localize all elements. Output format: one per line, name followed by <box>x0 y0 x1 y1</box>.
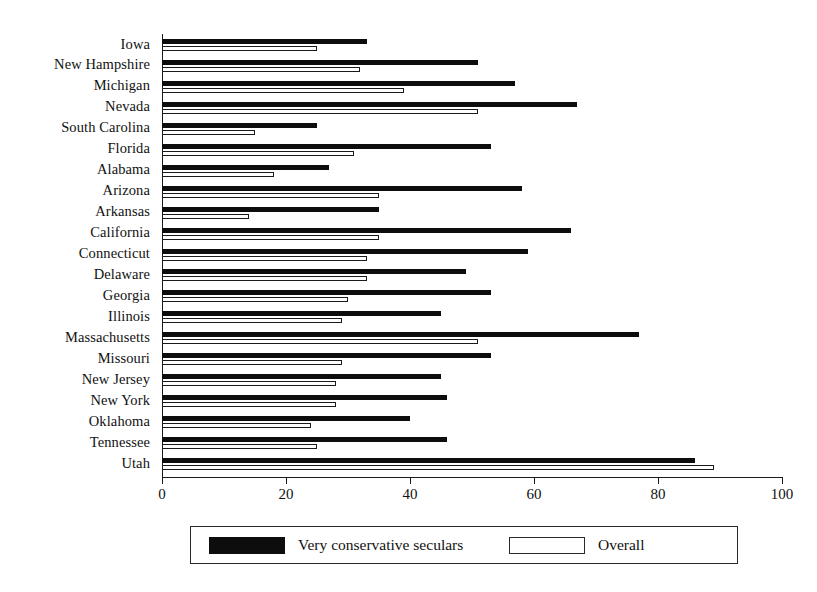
x-tick-mark <box>162 478 163 484</box>
bar-overall <box>162 130 255 135</box>
bar-chart: IowaNew HampshireMichiganNevadaSouth Car… <box>0 0 817 592</box>
x-tick-label: 0 <box>158 486 166 503</box>
category-label: Massachusetts <box>0 330 150 345</box>
bar-very-conservative-seculars <box>162 353 491 358</box>
x-tick-label: 40 <box>403 486 418 503</box>
bar-overall <box>162 465 714 470</box>
bar-overall <box>162 339 478 344</box>
bar-very-conservative-seculars <box>162 39 367 44</box>
x-tick-label: 80 <box>651 486 666 503</box>
category-label: Delaware <box>0 267 150 282</box>
category-axis-labels: IowaNew HampshireMichiganNevadaSouth Car… <box>0 36 156 476</box>
bar-very-conservative-seculars <box>162 269 466 274</box>
legend-entry-very-conservative-seculars: Very conservative seculars <box>209 527 463 563</box>
bar-very-conservative-seculars <box>162 416 410 421</box>
bar-very-conservative-seculars <box>162 186 522 191</box>
x-tick-label: 60 <box>527 486 542 503</box>
x-axis-line <box>162 477 783 478</box>
bar-overall <box>162 172 274 177</box>
bar-overall <box>162 256 367 261</box>
bar-overall <box>162 423 311 428</box>
bar-overall <box>162 193 379 198</box>
bar-overall <box>162 214 249 219</box>
bar-very-conservative-seculars <box>162 332 639 337</box>
category-label: New York <box>0 393 150 408</box>
x-tick-mark <box>658 478 659 484</box>
legend-label-very-conservative-seculars: Very conservative seculars <box>298 536 463 554</box>
dark-swatch-icon <box>209 537 285 554</box>
bar-very-conservative-seculars <box>162 165 329 170</box>
bar-overall <box>162 381 336 386</box>
bar-very-conservative-seculars <box>162 437 447 442</box>
scan-edge <box>0 0 817 2</box>
category-label: Georgia <box>0 288 150 303</box>
bar-overall <box>162 276 367 281</box>
x-tick-label: 20 <box>279 486 294 503</box>
x-tick-mark <box>782 478 783 484</box>
category-label: Oklahoma <box>0 414 150 429</box>
bar-very-conservative-seculars <box>162 249 528 254</box>
category-label: Utah <box>0 456 150 471</box>
bar-very-conservative-seculars <box>162 123 317 128</box>
category-label: Alabama <box>0 162 150 177</box>
category-label: Tennessee <box>0 435 150 450</box>
bar-very-conservative-seculars <box>162 311 441 316</box>
x-tick-mark <box>410 478 411 484</box>
category-label: Nevada <box>0 99 150 114</box>
bar-very-conservative-seculars <box>162 374 441 379</box>
category-label: Michigan <box>0 78 150 93</box>
bar-overall <box>162 360 342 365</box>
category-label: Connecticut <box>0 246 150 261</box>
bar-very-conservative-seculars <box>162 102 577 107</box>
bar-overall <box>162 297 348 302</box>
category-label: South Carolina <box>0 120 150 135</box>
category-label: New Hampshire <box>0 57 150 72</box>
bar-overall <box>162 67 360 72</box>
bar-overall <box>162 402 336 407</box>
category-label: California <box>0 225 150 240</box>
x-tick-label: 100 <box>771 486 794 503</box>
bar-overall <box>162 88 404 93</box>
bar-very-conservative-seculars <box>162 458 695 463</box>
bar-very-conservative-seculars <box>162 144 491 149</box>
bar-overall <box>162 109 478 114</box>
bar-very-conservative-seculars <box>162 60 478 65</box>
bar-very-conservative-seculars <box>162 207 379 212</box>
bar-overall <box>162 46 317 51</box>
bar-overall <box>162 151 354 156</box>
x-tick-mark <box>286 478 287 484</box>
category-label: New Jersey <box>0 372 150 387</box>
category-label: Iowa <box>0 37 150 52</box>
category-label: Arizona <box>0 183 150 198</box>
x-tick-mark <box>534 478 535 484</box>
bar-overall <box>162 444 317 449</box>
bar-overall <box>162 318 342 323</box>
bar-very-conservative-seculars <box>162 290 491 295</box>
category-label: Missouri <box>0 351 150 366</box>
bar-very-conservative-seculars <box>162 81 515 86</box>
category-label: Florida <box>0 141 150 156</box>
plot-area <box>162 36 782 476</box>
bar-overall <box>162 235 379 240</box>
bar-very-conservative-seculars <box>162 395 447 400</box>
category-label: Arkansas <box>0 204 150 219</box>
legend: Very conservative seculars Overall <box>190 526 738 564</box>
legend-entry-overall: Overall <box>509 527 644 563</box>
legend-label-overall: Overall <box>598 536 644 554</box>
bar-very-conservative-seculars <box>162 228 571 233</box>
light-swatch-icon <box>509 537 585 554</box>
category-label: Illinois <box>0 309 150 324</box>
